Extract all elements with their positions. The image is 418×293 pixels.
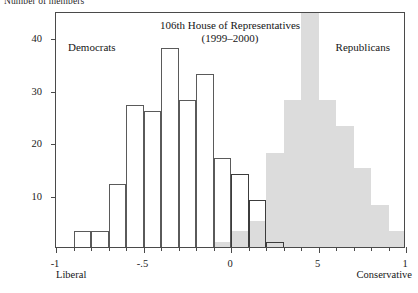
x-axis-minor-tick <box>179 247 180 251</box>
bar-republican <box>354 168 372 247</box>
x-axis-minor-tick <box>266 247 267 251</box>
bar-democrat <box>109 184 127 247</box>
bar-democrat <box>74 231 92 247</box>
x-axis-minor-tick <box>126 247 127 251</box>
x-axis-minor-tick <box>161 247 162 251</box>
bar-republican <box>336 126 354 247</box>
x-axis-minor-tick <box>109 247 110 251</box>
x-axis-tick-label: -1 <box>51 258 60 269</box>
x-axis-minor-tick <box>371 247 372 251</box>
x-axis-minor-tick <box>74 247 75 251</box>
x-axis-major-tick <box>56 247 57 253</box>
x-axis-minor-tick <box>389 247 390 251</box>
bar-democrat <box>161 48 179 247</box>
x-axis-tick-label: 0 <box>227 258 232 269</box>
plot-frame: 106th House of Representatives (1999–200… <box>55 12 405 248</box>
bar-democrat <box>144 111 162 247</box>
x-axis-minor-tick <box>336 247 337 251</box>
bar-republican <box>266 153 284 247</box>
x-axis-minor-tick <box>214 247 215 251</box>
bar-republican <box>389 231 405 247</box>
y-axis-tick <box>51 197 56 198</box>
y-axis-tick-label: 30 <box>14 85 42 96</box>
bar-democrat <box>179 100 197 247</box>
x-axis-major-tick <box>144 247 145 253</box>
bar-democrat <box>196 74 214 247</box>
y-axis-title: Number of members <box>4 0 84 6</box>
bar-republican <box>371 205 389 247</box>
x-axis-major-tick <box>319 247 320 253</box>
y-axis-tick <box>51 92 56 93</box>
bar-republican <box>284 100 302 247</box>
bar-democrat <box>231 174 249 247</box>
y-axis-tick-label: 10 <box>14 190 42 201</box>
x-axis-minor-tick <box>354 247 355 251</box>
x-axis-tick-label: 5 <box>315 258 320 269</box>
x-axis-major-tick <box>231 247 232 253</box>
bar-democrat <box>266 242 284 247</box>
x-axis-minor-tick <box>91 247 92 251</box>
bar-republican <box>301 13 319 247</box>
x-axis-minor-tick <box>284 247 285 251</box>
x-axis-minor-tick <box>196 247 197 251</box>
x-axis-tick-label: 1 <box>402 258 407 269</box>
bar-democrat <box>249 200 267 247</box>
x-axis-minor-tick <box>249 247 250 251</box>
y-axis-tick-label: 40 <box>14 33 42 44</box>
x-axis-tick-label: -.5 <box>137 258 148 269</box>
bar-democrat <box>126 105 144 247</box>
bars-layer <box>56 13 404 247</box>
axis-end-label-liberal: Liberal <box>56 269 86 280</box>
bar-democrat <box>214 158 232 247</box>
histogram-chart: Number of members 106th House of Represe… <box>0 0 418 293</box>
x-axis-major-tick <box>406 247 407 253</box>
y-axis-tick-label: 20 <box>14 138 42 149</box>
bar-democrat <box>91 231 109 247</box>
bar-republican <box>319 100 337 247</box>
y-axis-tick <box>51 39 56 40</box>
x-axis-minor-tick <box>301 247 302 251</box>
axis-end-label-conservative: Conservative <box>357 269 412 280</box>
y-axis-tick <box>51 144 56 145</box>
